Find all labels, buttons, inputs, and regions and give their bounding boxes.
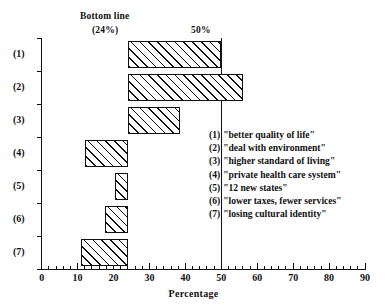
x-tick-minor — [228, 266, 229, 269]
x-tick-label-60: 60 — [252, 272, 262, 283]
x-tick-minor — [242, 266, 243, 269]
y-tick — [37, 71, 42, 72]
x-tick-major — [149, 263, 150, 269]
x-tick-minor — [264, 266, 265, 269]
x-tick-minor — [48, 266, 49, 269]
x-tick-label-30: 30 — [144, 272, 154, 283]
category-label-5: (5) — [13, 180, 25, 191]
x-tick-minor — [235, 266, 236, 269]
legend-item-4: (4)"private health care system" — [209, 168, 385, 181]
x-tick-minor — [106, 266, 107, 269]
x-axis — [41, 269, 366, 270]
x-tick-minor — [250, 266, 251, 269]
category-label-4: (4) — [13, 147, 25, 158]
bar-3 — [128, 107, 180, 134]
x-tick-major — [329, 263, 330, 269]
fifty-percent-annotation: 50% — [191, 25, 211, 35]
x-tick-minor — [350, 266, 351, 269]
x-tick-minor — [142, 266, 143, 269]
category-label-3: (3) — [13, 114, 25, 125]
x-tick-label-80: 80 — [324, 272, 334, 283]
x-tick-major — [77, 263, 78, 269]
legend-key-4: (4) — [209, 169, 220, 180]
x-tick-label-0: 0 — [39, 272, 44, 283]
legend-label-7: "losing cultural identity" — [223, 208, 326, 219]
bottom-line-annotation: Bottom line — [80, 11, 129, 21]
legend-key-1: (1) — [209, 129, 220, 140]
x-tick-minor — [271, 266, 272, 269]
y-tick — [37, 170, 42, 171]
legend-key-7: (7) — [209, 208, 220, 219]
legend-item-3: (3)"higher standard of living" — [209, 154, 385, 167]
category-label-6: (6) — [13, 213, 25, 224]
x-axis-title: Percentage — [0, 288, 387, 299]
x-tick-label-40: 40 — [180, 272, 190, 283]
x-tick-major — [365, 263, 366, 269]
legend-item-7: (7)"losing cultural identity" — [209, 207, 385, 220]
x-tick-major — [185, 263, 186, 269]
x-tick-minor — [300, 266, 301, 269]
x-tick-minor — [178, 266, 179, 269]
x-tick-minor — [135, 266, 136, 269]
x-tick-minor — [127, 266, 128, 269]
x-tick-label-10: 10 — [73, 272, 83, 283]
y-tick — [37, 203, 42, 204]
x-tick-minor — [336, 266, 337, 269]
x-tick-minor — [307, 266, 308, 269]
y-tick — [37, 38, 42, 39]
legend-item-5: (5)"12 new states" — [209, 181, 385, 194]
x-tick-minor — [314, 266, 315, 269]
legend-item-6: (6)"lower taxes, fewer services" — [209, 194, 385, 207]
bottom-line-value-annotation: (24%) — [92, 25, 118, 35]
y-tick — [37, 236, 42, 237]
bar-6 — [105, 206, 128, 233]
bar-5 — [115, 173, 128, 200]
x-tick-label-50: 50 — [216, 272, 226, 283]
legend-key-6: (6) — [209, 195, 220, 206]
y-tick — [37, 269, 42, 270]
legend-key-2: (2) — [209, 142, 220, 153]
x-tick-label-20: 20 — [109, 272, 119, 283]
x-tick-minor — [56, 266, 57, 269]
bar-2 — [128, 74, 243, 101]
x-tick-minor — [285, 266, 286, 269]
legend-label-3: "higher standard of living" — [223, 155, 335, 166]
legend-label-6: "lower taxes, fewer services" — [223, 195, 341, 206]
x-tick-minor — [206, 266, 207, 269]
y-tick — [37, 104, 42, 105]
legend-key-5: (5) — [209, 182, 220, 193]
x-tick-major — [221, 263, 222, 269]
x-tick-minor — [343, 266, 344, 269]
x-tick-minor — [278, 266, 279, 269]
x-tick-label-70: 70 — [288, 272, 298, 283]
x-tick-minor — [214, 266, 215, 269]
x-tick-major — [293, 263, 294, 269]
legend-label-4: "private health care system" — [223, 169, 341, 180]
x-tick-minor — [156, 266, 157, 269]
x-tick-minor — [84, 266, 85, 269]
legend: (1)"better quality of life"(2)"deal with… — [209, 128, 385, 220]
x-tick-minor — [163, 266, 164, 269]
category-label-1: (1) — [13, 48, 25, 59]
x-tick-minor — [199, 266, 200, 269]
x-tick-minor — [321, 266, 322, 269]
x-tick-minor — [357, 266, 358, 269]
x-tick-minor — [120, 266, 121, 269]
bar-4 — [85, 140, 128, 167]
legend-item-2: (2)"deal with environment" — [209, 141, 385, 154]
x-tick-minor — [99, 266, 100, 269]
x-tick-major — [257, 263, 258, 269]
x-tick-minor — [70, 266, 71, 269]
bar-7 — [81, 239, 128, 266]
x-tick-minor — [63, 266, 64, 269]
legend-item-1: (1)"better quality of life" — [209, 128, 385, 141]
category-label-7: (7) — [13, 246, 25, 257]
x-tick-minor — [192, 266, 193, 269]
legend-label-2: "deal with environment" — [223, 142, 326, 153]
legend-label-1: "better quality of life" — [223, 129, 315, 140]
x-tick-label-90: 90 — [360, 272, 370, 283]
category-label-2: (2) — [13, 81, 25, 92]
legend-label-5: "12 new states" — [223, 182, 287, 193]
bar-1 — [128, 41, 221, 68]
bar-chart: Bottom line (24%) 50% 010203040506070809… — [0, 0, 387, 308]
